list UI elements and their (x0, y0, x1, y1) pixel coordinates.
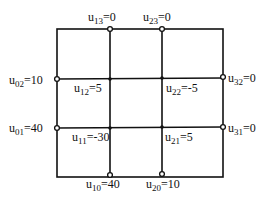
grid-lines (0, 0, 268, 202)
label-u21: u21=5 (165, 131, 193, 143)
node-u12 (108, 77, 112, 81)
node-u21 (160, 125, 164, 129)
label-u11: u11=-30 (72, 131, 109, 143)
node-u22 (160, 76, 164, 80)
label-u12: u12=5 (74, 82, 102, 94)
node-u02 (55, 77, 60, 82)
label-u31: u31=0 (228, 122, 256, 134)
node-u31 (221, 125, 226, 130)
label-u01: u01=40 (9, 122, 43, 134)
node-u23 (160, 27, 165, 32)
label-u22: u22=-5 (166, 82, 198, 94)
label-u13: u13=0 (88, 11, 116, 23)
grid-diagram: u13=0 u23=0 u02=10 u12=5 u22=-5 u32=0 u0… (0, 0, 268, 202)
label-u20: u20=10 (146, 178, 180, 190)
node-u13 (108, 27, 113, 32)
node-u32 (221, 75, 226, 80)
node-u20 (160, 172, 165, 177)
label-u02: u02=10 (9, 74, 43, 86)
node-u01 (55, 126, 60, 131)
label-u32: u32=0 (228, 72, 256, 84)
label-u23: u23=0 (143, 11, 171, 23)
label-u10: u10=40 (86, 178, 120, 190)
